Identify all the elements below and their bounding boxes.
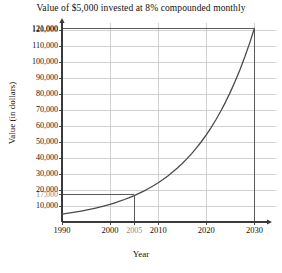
- chart-figure: Value of $5,000 invested at 8% compounde…: [0, 0, 282, 273]
- vertical-gridlines: [110, 23, 254, 222]
- horizontal-gridlines: [62, 30, 276, 206]
- y-axis-arrow-icon: [59, 18, 64, 23]
- plot-area: [0, 0, 282, 273]
- axis-lines: [59, 18, 272, 225]
- x-axis-arrow-icon: [267, 219, 272, 224]
